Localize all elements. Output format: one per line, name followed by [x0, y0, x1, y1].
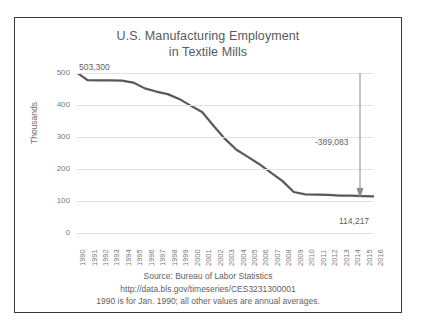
gridline-100 — [76, 201, 374, 202]
x-tick-label: 2010 — [308, 249, 316, 266]
x-tick-label: 2002 — [217, 249, 225, 266]
x-tick-label: 1999 — [182, 249, 190, 266]
x-tick-label: 2008 — [285, 249, 293, 266]
y-tick-label: 200 — [36, 165, 70, 173]
x-tick-label: 1991 — [91, 249, 99, 266]
x-tick-label: 2000 — [194, 249, 202, 266]
y-axis-tick-labels: 0100200300400500 — [32, 73, 70, 233]
figure-frame: U.S. Manufacturing Employment in Textile… — [14, 17, 402, 313]
plot-area — [76, 73, 374, 233]
footnote-source: Source: Bureau of Labor Statistics — [15, 270, 401, 283]
gridline-0 — [76, 233, 374, 234]
footnote-url: http://data.bls.gov/timeseries/CES323130… — [15, 283, 401, 296]
x-tick-label: 1990 — [79, 249, 87, 266]
x-tick-label: 2006 — [262, 249, 270, 266]
chart-title-line-1: U.S. Manufacturing Employment — [15, 29, 401, 43]
gridline-500 — [76, 73, 374, 74]
x-tick-label: 2011 — [320, 250, 328, 266]
x-tick-label: 2012 — [331, 249, 339, 266]
y-tick-label: 500 — [36, 69, 70, 77]
x-tick-label: 2004 — [240, 249, 248, 266]
footnotes-block: Source: Bureau of Labor Statistics http:… — [15, 270, 401, 308]
footnote-note: 1990 is for Jan. 1990; all other values … — [15, 295, 401, 308]
x-tick-label: 1995 — [136, 249, 144, 266]
y-tick-label: 0 — [36, 229, 70, 237]
x-tick-label: 1992 — [102, 249, 110, 266]
x-tick-label: 2007 — [274, 249, 282, 266]
x-tick-label: 1993 — [113, 249, 121, 266]
end-value-label: 114,217 — [339, 216, 369, 226]
x-tick-label: 1994 — [125, 249, 133, 266]
x-tick-label: 1996 — [148, 249, 156, 266]
x-tick-label: 1998 — [171, 249, 179, 266]
start-value-label: 503,300 — [79, 62, 110, 72]
y-tick-label: 100 — [36, 197, 70, 205]
x-tick-label: 1997 — [159, 249, 167, 266]
x-tick-label: 2005 — [251, 249, 259, 266]
x-tick-label: 2003 — [228, 249, 236, 266]
x-tick-label: 2015 — [366, 249, 374, 266]
x-tick-label: 2013 — [343, 249, 351, 266]
x-tick-label: 2014 — [354, 249, 362, 266]
employment-line-series — [76, 73, 374, 233]
gridline-200 — [76, 169, 374, 170]
chart-root: U.S. Manufacturing Employment in Textile… — [15, 18, 401, 312]
x-tick-label: 2001 — [205, 249, 213, 266]
gridline-400 — [76, 105, 374, 106]
x-tick-label: 2016 — [377, 249, 385, 266]
chart-title-line-2: in Textile Mills — [15, 45, 401, 59]
total-change-label: -389,083 — [315, 137, 349, 147]
x-tick-label: 2009 — [297, 249, 305, 266]
y-tick-label: 400 — [36, 101, 70, 109]
y-tick-label: 300 — [36, 133, 70, 141]
